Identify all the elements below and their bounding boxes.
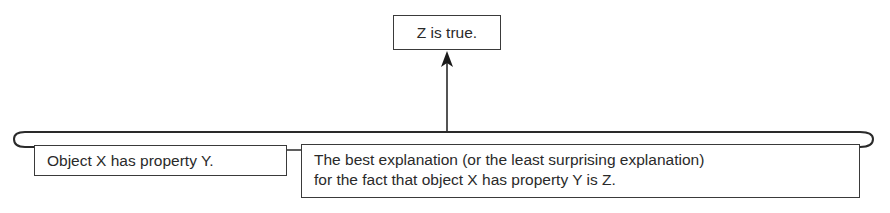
premise-box-2: The best explanation (or the least surpr…	[301, 144, 860, 198]
premise-1-text: Object X has property Y.	[47, 151, 214, 171]
conclusion-text: Z is true.	[417, 23, 477, 43]
conclusion-box: Z is true.	[393, 15, 501, 50]
premise-2-line-2: for the fact that object X has property …	[314, 170, 847, 190]
premise-2-line-1: The best explanation (or the least surpr…	[314, 150, 847, 170]
premise-box-1: Object X has property Y.	[34, 145, 287, 176]
